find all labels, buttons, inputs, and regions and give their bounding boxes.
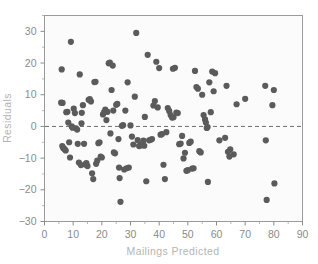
scatter-point (77, 71, 83, 77)
scatter-point (262, 83, 268, 89)
scatter-point (74, 126, 80, 132)
scatter-point (142, 114, 148, 120)
scatter-point (130, 141, 136, 147)
scatter-point (143, 178, 149, 184)
scatter-point (192, 68, 198, 74)
scatter-point (90, 176, 96, 182)
scatter-point (160, 162, 166, 168)
scatter-point (79, 110, 85, 116)
scatter-point (115, 136, 121, 142)
scatter-point (195, 86, 201, 92)
scatter-point (108, 87, 114, 93)
scatter-point (211, 88, 217, 94)
scatter-point (59, 100, 65, 106)
scatter-point (117, 175, 123, 181)
x-tick-label: 80 (268, 228, 280, 240)
x-tick-label: 60 (211, 228, 223, 240)
scatter-point (117, 199, 123, 205)
scatter-point (89, 170, 95, 176)
plot-svg: −30−20−100102030 0102030405060708090 Mai… (0, 0, 318, 264)
scatter-point (205, 124, 211, 130)
x-tick-label: 10 (67, 228, 79, 240)
x-tick-label: 40 (153, 228, 165, 240)
scatter-point (149, 136, 155, 142)
scatter-point (233, 101, 239, 107)
scatter-point (227, 146, 233, 152)
y-axis-tick-labels: −30−20−100102030 (19, 25, 37, 227)
scatter-point (242, 96, 248, 102)
scatter-point (81, 141, 87, 147)
x-tick-label: 30 (125, 228, 137, 240)
scatter-point (206, 79, 212, 85)
scatter-point (170, 66, 176, 72)
scatter-point (88, 98, 94, 104)
scatter-point (120, 122, 126, 128)
scatter-point (208, 109, 214, 115)
x-tick-label: 20 (96, 228, 108, 240)
scatter-point (133, 30, 139, 36)
scatter-point (271, 180, 277, 186)
scatter-point (110, 62, 116, 68)
scatter-point (104, 109, 110, 115)
y-axis-major-ticks (41, 31, 45, 221)
y-tick-label: 10 (25, 88, 37, 100)
scatter-point (125, 79, 131, 85)
scatter-point (263, 137, 269, 143)
scatter-point (198, 149, 204, 155)
y-tick-label: 0 (31, 120, 37, 132)
scatter-point (222, 135, 228, 141)
scatter-point (231, 151, 237, 157)
scatter-point (152, 98, 158, 104)
scatter-point (205, 179, 211, 185)
scatter-point (188, 139, 194, 145)
x-tick-label: 70 (239, 228, 251, 240)
x-tick-label: 90 (297, 228, 309, 240)
y-tick-label: −10 (19, 152, 37, 164)
scatter-point (103, 117, 109, 123)
scatter-point (156, 65, 162, 71)
scatter-point (78, 120, 84, 126)
y-tick-label: 20 (25, 57, 37, 69)
scatter-point (96, 139, 102, 145)
scatter-point (182, 150, 188, 156)
scatter-point (271, 87, 277, 93)
scatter-point (162, 176, 168, 182)
x-tick-label: 0 (42, 228, 48, 240)
scatter-point (223, 83, 229, 89)
scatter-point (66, 139, 72, 145)
scatter-point (59, 66, 65, 72)
scatter-point (126, 165, 132, 171)
scatter-point (114, 101, 120, 107)
scatter-point (163, 129, 169, 135)
scatter-point (63, 147, 69, 153)
scatter-point (269, 102, 275, 108)
y-axis-title: Residuals (1, 93, 13, 143)
y-tick-label: −20 (19, 183, 37, 195)
scatter-point (175, 110, 181, 116)
scatter-point (99, 154, 105, 160)
scatter-point (153, 59, 159, 65)
x-axis-title: Mailings Predicted (127, 245, 220, 257)
scatter-point (92, 79, 98, 85)
scatter-point (64, 109, 70, 115)
x-axis-tick-labels: 0102030405060708090 (42, 228, 309, 240)
scatter-point (80, 102, 86, 108)
scatter-point (122, 107, 128, 113)
residual-scatter-plot-figure: −30−20−100102030 0102030405060708090 Mai… (0, 0, 318, 264)
scatter-point (216, 137, 222, 143)
y-tick-label: −30 (19, 215, 37, 227)
scatter-point (72, 110, 78, 116)
scatter-point (145, 52, 151, 58)
scatter-point (264, 197, 270, 203)
scatter-point (132, 94, 138, 100)
scatter-point (179, 133, 185, 139)
scatter-point (110, 107, 116, 113)
scatter-point (75, 141, 81, 147)
scatter-point (212, 70, 218, 76)
scatter-point (68, 39, 74, 45)
scatter-point (67, 154, 73, 160)
scatter-point (129, 133, 135, 139)
y-tick-label: 30 (25, 25, 37, 37)
scatter-point (141, 143, 147, 149)
scatter-point (112, 150, 118, 156)
